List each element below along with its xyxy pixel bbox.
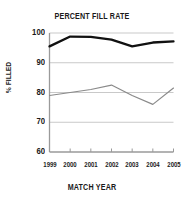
series-line-lower-series: [50, 85, 174, 104]
y-tick-label-70: 70: [22, 116, 44, 126]
chart-screenshot: PERCENT FILL RATE % FILLED 60708090100 1…: [0, 0, 184, 205]
y-tick-label-60: 60: [22, 146, 44, 156]
y-tick-label-100: 100: [22, 27, 44, 37]
x-tick-label-1999: 1999: [40, 160, 59, 169]
x-tick-label-2002: 2002: [102, 160, 121, 169]
x-tick-label-2000: 2000: [61, 160, 80, 169]
y-tick-label-80: 80: [22, 87, 44, 97]
series-line-upper-series: [50, 37, 174, 47]
gridlines: [50, 33, 174, 122]
y-tick-label-90: 90: [22, 57, 44, 67]
data-series-lines: [50, 37, 174, 105]
x-tick-label-2004: 2004: [143, 160, 162, 169]
x-axis-title: MATCH YEAR: [15, 182, 170, 192]
x-tick-label-2005: 2005: [164, 160, 183, 169]
x-tick-label-2003: 2003: [123, 160, 142, 169]
x-tick-label-2001: 2001: [81, 160, 100, 169]
